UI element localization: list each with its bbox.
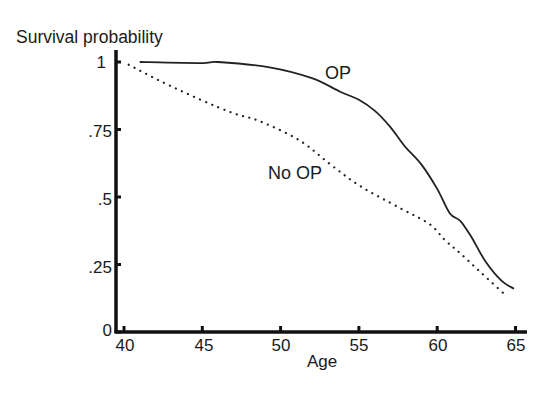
y-tick-label-075: .75	[72, 123, 112, 140]
x-tick-label-50: 50	[266, 337, 296, 354]
x-tick-label-40: 40	[110, 337, 140, 354]
y-tick-label-05: .5	[72, 191, 112, 208]
y-tick-label-1: 1	[66, 54, 106, 71]
series-label-op: OP	[325, 64, 351, 82]
y-axis-title: Survival probability	[16, 29, 163, 47]
x-tick-label-65: 65	[501, 337, 531, 354]
x-axis-title: Age	[307, 353, 337, 370]
y-tick-label-025: .25	[72, 259, 112, 276]
series-label-no-op: No OP	[268, 164, 322, 182]
x-tick-label-55: 55	[344, 337, 374, 354]
line-op	[140, 62, 514, 289]
x-tick-label-45: 45	[189, 337, 219, 354]
y-tick-label-0: 0	[72, 322, 112, 339]
x-tick-label-60: 60	[423, 337, 453, 354]
